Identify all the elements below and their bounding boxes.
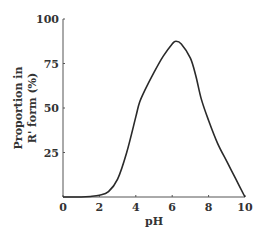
- y-tick-label: 100: [36, 13, 59, 26]
- y-tick-label: 50: [44, 102, 60, 115]
- series-layer: [63, 41, 245, 197]
- y-ticks: 255075100: [36, 13, 65, 160]
- series-line: [63, 41, 245, 197]
- y-axis-label-line-1: Proportion in: [12, 67, 25, 150]
- y-tick-label: 25: [44, 147, 59, 160]
- y-axis-label-line-2: R' form (%): [26, 73, 39, 144]
- y-tick-label: 75: [44, 58, 59, 71]
- y-axis-label: Proportion in R' form (%): [12, 67, 39, 150]
- x-tick-label: 2: [96, 201, 104, 214]
- x-axis-label: pH: [145, 215, 163, 228]
- x-tick-label: 6: [168, 201, 176, 214]
- x-ticks: 0246810: [59, 195, 253, 214]
- x-tick-label: 8: [205, 201, 213, 214]
- x-tick-label: 10: [237, 201, 253, 214]
- axes: [63, 19, 245, 197]
- chart: 255075100 0246810 pH Proportion in R' fo…: [0, 0, 262, 238]
- x-tick-label: 4: [132, 201, 140, 214]
- x-tick-label: 0: [59, 201, 67, 214]
